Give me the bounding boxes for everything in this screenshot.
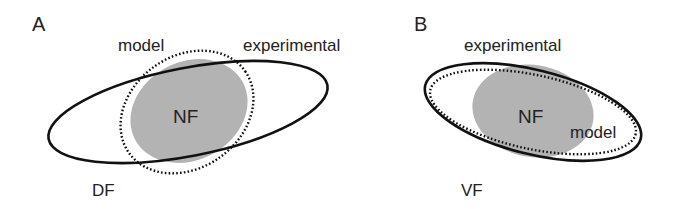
panel-b: B experimental NF model VF	[414, 13, 651, 200]
panel-b-experimental-label: experimental	[464, 36, 561, 55]
panel-a-letter: A	[32, 13, 46, 35]
panel-b-letter: B	[414, 13, 427, 35]
panel-a-model-label: model	[118, 36, 164, 55]
panel-b-model-label: model	[570, 123, 616, 142]
panel-b-vf-label: VF	[461, 181, 483, 200]
panel-a: A model experimental NF DF	[32, 13, 340, 200]
panel-a-df-label: DF	[92, 181, 115, 200]
ellipse-comparison-figure: A model experimental NF DF B experimenta…	[0, 0, 674, 209]
panel-b-nf-label: NF	[518, 106, 543, 127]
panel-a-nf-label: NF	[173, 106, 198, 127]
panel-a-experimental-label: experimental	[243, 36, 340, 55]
